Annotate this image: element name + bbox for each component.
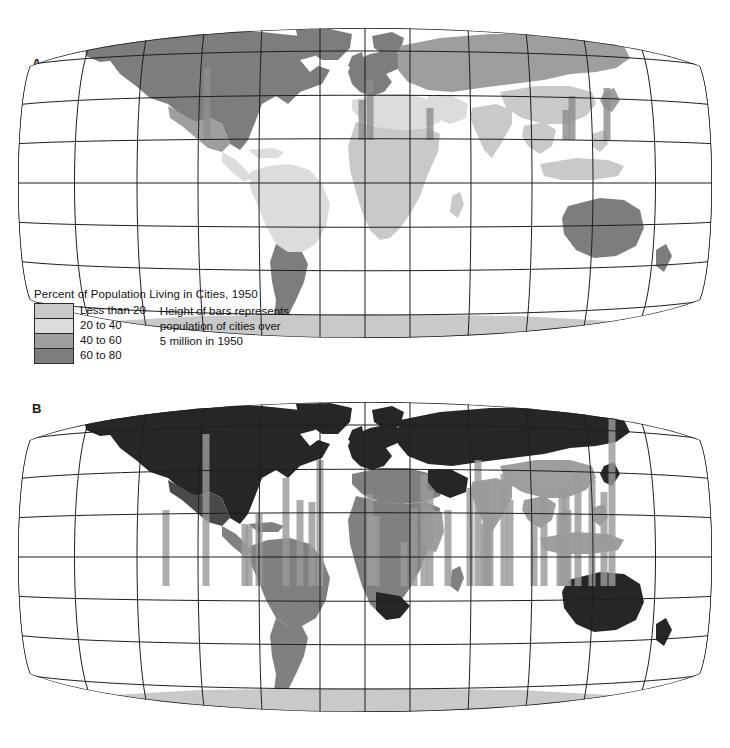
city-bar <box>359 100 366 140</box>
map-panel-a: A <box>0 0 730 374</box>
world-map-2000 <box>0 374 730 748</box>
city-bar <box>163 510 170 586</box>
city-bar <box>575 476 582 586</box>
legend-swatch-row <box>35 348 73 363</box>
city-bar <box>367 80 374 140</box>
city-bar <box>427 490 434 586</box>
city-bar <box>427 108 434 140</box>
city-bar <box>501 474 508 586</box>
city-bar <box>367 494 374 586</box>
city-bar <box>203 434 210 586</box>
legend-1950: Percent of Population Living in Cities, … <box>34 288 289 364</box>
city-bar <box>373 516 380 586</box>
legend-swatch-row <box>35 304 73 318</box>
legend-note-line: Height of bars represents <box>160 304 289 319</box>
city-bar <box>541 494 548 586</box>
city-bar <box>204 68 211 140</box>
city-bar <box>421 474 428 586</box>
city-bar <box>485 530 492 586</box>
city-bar <box>565 510 572 586</box>
city-bar <box>445 510 452 586</box>
city-bar <box>601 492 608 586</box>
legend-note-line: population of cities over <box>160 319 289 334</box>
legend-swatch-lt20 <box>35 304 73 318</box>
map-panel-b: B <box>0 374 730 748</box>
city-bar <box>411 508 418 586</box>
legend-swatch-row <box>35 318 73 333</box>
city-bar <box>569 96 576 140</box>
legend-label-20-40: 20 to 40 <box>80 318 146 333</box>
city-bar <box>604 88 611 140</box>
legend-swatches-1950 <box>34 303 74 364</box>
city-bar <box>309 502 316 586</box>
legend-swatch-40-60 <box>35 333 73 348</box>
city-bar <box>475 460 482 586</box>
legend-note-1950: Height of bars represents population of … <box>160 303 289 349</box>
legend-label-40-60: 40 to 60 <box>80 333 146 348</box>
legend-swatch-20-40 <box>35 318 73 333</box>
legend-labels-1950: Less than 20 20 to 40 40 to 60 60 to 80 <box>80 303 146 363</box>
city-bar <box>246 526 253 586</box>
legend-label-60-80: 60 to 80 <box>80 348 146 363</box>
legend-swatch-row <box>35 333 73 348</box>
city-bar <box>283 478 290 586</box>
legend-label-lt20: Less than 20 <box>80 303 146 318</box>
city-bar <box>557 514 564 586</box>
city-bar <box>609 408 616 586</box>
legend-title-1950: Percent of Population Living in Cities, … <box>34 288 289 300</box>
city-bar <box>467 488 474 586</box>
legend-swatch-60-80 <box>35 348 73 363</box>
city-bar <box>563 110 570 140</box>
legend-note-line: 5 million in 1950 <box>160 334 289 349</box>
city-bar <box>401 542 408 586</box>
